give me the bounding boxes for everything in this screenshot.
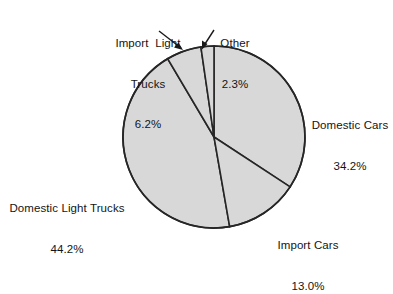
slice-label-import-light-trucks-line1: Import Light [96,37,200,51]
slice-value-import-light-trucks: 6.2% [96,118,200,132]
slice-label-other-line1: Other [198,37,272,51]
slice-label-domestic-cars: Domestic Cars 34.2% [306,92,393,200]
slice-value-domestic-cars: 34.2% [306,160,393,174]
slice-label-domestic-light-trucks: Domestic Light Trucks 44.2% [2,175,132,283]
slice-label-domestic-cars-line1: Domestic Cars [306,119,393,133]
slice-value-domestic-light-trucks: 44.2% [2,243,132,257]
slice-label-import-cars: Import Cars 13.0% [262,212,354,294]
slice-label-import-light-trucks-line2: Trucks [96,78,200,92]
slice-label-domestic-light-trucks-line1: Domestic Light Trucks [2,202,132,216]
slice-label-other: Other 2.3% [198,10,272,118]
slice-value-import-cars: 13.0% [262,280,354,294]
slice-value-other: 2.3% [198,78,272,92]
slice-label-import-light-trucks: Import Light Trucks 6.2% [96,10,200,159]
slice-label-import-cars-line1: Import Cars [262,239,354,253]
